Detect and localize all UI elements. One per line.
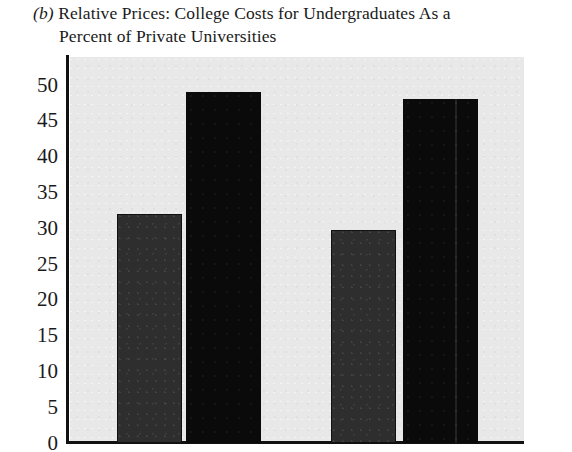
bar-group2-bar1 (331, 230, 396, 443)
y-tick-label-25: 25 (4, 254, 58, 275)
bar-group2-bar2 (403, 99, 478, 443)
y-tick-label-50: 50 (4, 75, 58, 96)
y-tick-label-35: 35 (4, 182, 58, 203)
y-tick-label-40: 40 (4, 146, 58, 167)
bar-scan-seam (455, 99, 457, 443)
y-tick-label-10: 10 (4, 361, 58, 382)
bar-chart: 05101520253035404550 (0, 0, 572, 452)
y-tick-label-15: 15 (4, 325, 58, 346)
bar-group1-bar2 (186, 92, 261, 443)
y-tick-label-0: 0 (4, 433, 58, 452)
y-axis-line (66, 55, 69, 444)
y-tick-label-20: 20 (4, 289, 58, 310)
bar-group1-bar1 (117, 214, 182, 443)
y-tick-label-45: 45 (4, 110, 58, 131)
y-tick-label-5: 5 (4, 397, 58, 418)
y-tick-label-30: 30 (4, 218, 58, 239)
